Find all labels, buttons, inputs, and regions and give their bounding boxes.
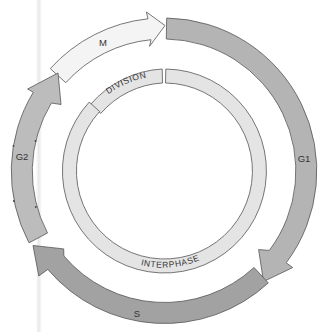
g2-tick-mark bbox=[35, 206, 37, 208]
phase-g1-label: G1 bbox=[298, 153, 311, 164]
g2-tick-mark bbox=[35, 140, 37, 142]
g2-tick-mark bbox=[13, 200, 15, 202]
g2-tick-mark bbox=[13, 145, 15, 147]
cell-cycle-diagram: DIVISION INTERPHASE M G1 S G2 bbox=[0, 0, 327, 332]
phase-m-label: M bbox=[99, 37, 107, 48]
phase-g2-label: G2 bbox=[16, 151, 29, 162]
inner-ring-interphase bbox=[62, 69, 266, 273]
phase-s-label: S bbox=[134, 308, 140, 319]
outer-cycle bbox=[11, 12, 317, 323]
inner-ring: DIVISION INTERPHASE bbox=[62, 69, 266, 273]
phase-g1-arrow bbox=[166, 18, 317, 282]
phase-s-arrow bbox=[33, 246, 268, 324]
